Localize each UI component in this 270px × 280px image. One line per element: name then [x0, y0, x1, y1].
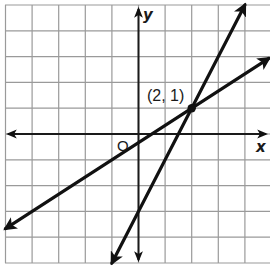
y-axis-label: y — [143, 6, 154, 24]
x-axis-label: x — [255, 138, 267, 156]
intersection-point — [188, 104, 196, 112]
origin-label: O — [117, 137, 129, 154]
intersection-label: (2, 1) — [147, 87, 184, 104]
coordinate-graph: (2, 1) x y O — [0, 0, 270, 280]
line-y-equals-two-thirds-x-minus-one-third — [6, 58, 269, 228]
